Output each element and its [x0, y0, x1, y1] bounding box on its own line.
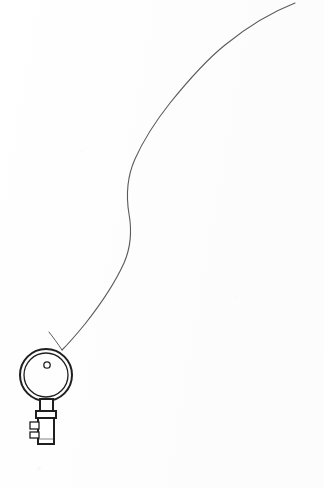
key-group — [20, 349, 72, 444]
key-shank — [38, 418, 54, 444]
drawing-canvas — [0, 0, 324, 488]
key-bow-hole — [44, 362, 50, 368]
string-tail-path — [49, 332, 62, 350]
key-tooth — [30, 432, 39, 438]
key-bow-inner-ring — [24, 353, 68, 397]
key-bow-outer-ring — [20, 349, 72, 401]
key-on-string-illustration — [0, 0, 324, 488]
key-collar — [36, 411, 56, 418]
string-group — [49, 3, 295, 350]
key-tooth — [30, 422, 39, 429]
string-path — [62, 3, 295, 350]
